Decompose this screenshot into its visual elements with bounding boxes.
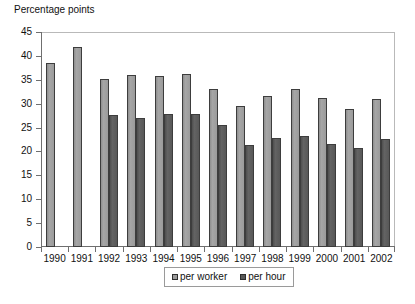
chart-legend: per worker per hour xyxy=(164,267,294,287)
bar xyxy=(318,98,327,247)
bar xyxy=(209,89,218,247)
x-axis-tick xyxy=(41,247,42,252)
bar-group xyxy=(46,32,64,247)
x-axis-tick xyxy=(204,247,205,252)
x-axis-tick xyxy=(177,247,178,252)
bar-group xyxy=(263,32,281,247)
x-axis-tick xyxy=(232,247,233,252)
legend-item-per-hour: per hour xyxy=(240,272,285,282)
bar xyxy=(236,106,245,247)
x-axis-tick-label: 1995 xyxy=(177,253,204,265)
bars-layer xyxy=(41,32,395,247)
bar xyxy=(300,136,309,247)
x-axis-ticks xyxy=(41,247,395,252)
y-axis-tick-label: 10 xyxy=(2,194,32,204)
bar xyxy=(327,144,336,247)
x-axis-tick-label: 1999 xyxy=(286,253,313,265)
x-axis-tick xyxy=(259,247,260,252)
bar xyxy=(345,109,354,247)
bar-group xyxy=(155,32,173,247)
y-axis-tick-label: 35 xyxy=(2,75,32,85)
x-axis-tick-label: 1993 xyxy=(123,253,150,265)
x-axis-tick-label: 1991 xyxy=(68,253,95,265)
bar xyxy=(109,115,118,247)
bar xyxy=(127,75,136,247)
y-axis-tick-label: 40 xyxy=(2,51,32,61)
y-axis-tick-label: 0 xyxy=(2,242,32,252)
y-axis-tick-label: 45 xyxy=(2,27,32,37)
bar xyxy=(272,138,281,247)
bar-group xyxy=(236,32,254,247)
bar-group xyxy=(318,32,336,247)
x-axis-tick-label: 2001 xyxy=(341,253,368,265)
x-axis-tick-label: 1990 xyxy=(41,253,68,265)
x-axis-tick-label: 1994 xyxy=(150,253,177,265)
x-axis-labels: 1990199119921993199419951996199719981999… xyxy=(41,253,395,267)
legend-label: per worker xyxy=(180,272,227,282)
y-axis-tick-label: 15 xyxy=(2,170,32,180)
y-axis-tick-label: 20 xyxy=(2,146,32,156)
bar-group xyxy=(209,32,227,247)
bar-group xyxy=(372,32,390,247)
x-axis-tick xyxy=(313,247,314,252)
bar xyxy=(136,118,145,247)
bar xyxy=(381,139,390,247)
bar xyxy=(155,76,164,247)
x-axis-tick xyxy=(286,247,287,252)
x-axis-tick-label: 2000 xyxy=(313,253,340,265)
bar xyxy=(263,96,272,247)
bar-group xyxy=(100,32,118,247)
bar xyxy=(372,99,381,247)
x-axis-tick xyxy=(68,247,69,252)
bar xyxy=(245,145,254,247)
y-axis-tick-label: 25 xyxy=(2,123,32,133)
x-axis-tick-label: 1996 xyxy=(204,253,231,265)
x-axis-tick xyxy=(394,247,395,252)
bar xyxy=(100,79,109,247)
y-axis-tick-label: 5 xyxy=(2,218,32,228)
bar xyxy=(218,125,227,247)
bar xyxy=(182,74,191,247)
bar xyxy=(291,89,300,247)
legend-item-per-worker: per worker xyxy=(172,272,227,282)
bar xyxy=(46,63,55,247)
x-axis-tick-label: 1992 xyxy=(95,253,122,265)
x-axis-tick xyxy=(123,247,124,252)
x-axis-tick xyxy=(341,247,342,252)
x-axis-tick xyxy=(150,247,151,252)
bar-group xyxy=(127,32,145,247)
bar xyxy=(164,114,173,247)
bar-group xyxy=(73,32,91,247)
bar xyxy=(354,148,363,247)
x-axis-tick xyxy=(95,247,96,252)
bar-chart: Percentage points 051015202530354045 199… xyxy=(0,0,415,304)
x-axis-tick-label: 1998 xyxy=(259,253,286,265)
x-axis-tick xyxy=(368,247,369,252)
legend-label: per hour xyxy=(248,272,285,282)
bar xyxy=(191,114,200,247)
y-axis-tick-label: 30 xyxy=(2,99,32,109)
bar-group xyxy=(345,32,363,247)
y-axis: 051015202530354045 xyxy=(0,0,41,304)
bar-group xyxy=(291,32,309,247)
x-axis-tick-label: 1997 xyxy=(232,253,259,265)
legend-swatch-icon xyxy=(172,274,178,280)
legend-swatch-icon xyxy=(240,274,246,280)
bar xyxy=(73,47,82,247)
bar-group xyxy=(182,32,200,247)
x-axis-tick-label: 2002 xyxy=(368,253,395,265)
